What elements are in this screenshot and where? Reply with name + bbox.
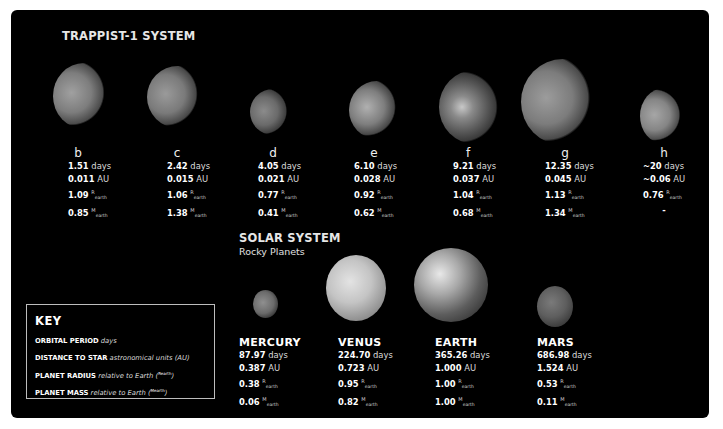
mars-stats: MARS 686.98 days 1.524 AU 0.53 Rearth 0.… bbox=[537, 336, 592, 412]
planet-c-image bbox=[147, 66, 209, 128]
planet-c-stats: c 2.42 days 0.015 AU 1.06 Rearth 1.38 Me… bbox=[167, 147, 210, 223]
venus-image bbox=[326, 255, 386, 321]
key-title: KEY bbox=[35, 314, 62, 328]
key-row-distance: DISTANCE TO STAR astronomical units (AU) bbox=[35, 354, 190, 362]
planet-label: d bbox=[258, 147, 288, 159]
planet-label: e bbox=[354, 147, 394, 159]
planet-e-image bbox=[349, 81, 405, 139]
key-row-mass: PLANET MASS relative to Earth (Mearth) bbox=[35, 388, 167, 397]
planet-label: g bbox=[545, 147, 585, 159]
planet-d-image bbox=[250, 89, 296, 135]
mars-image bbox=[537, 286, 573, 327]
infographic-panel: TRAPPIST-1 SYSTEM b 1.51 days 0.011 AU 1… bbox=[11, 10, 709, 418]
planet-g-image bbox=[521, 59, 605, 145]
planet-e-stats: e 6.10 days 0.028 AU 0.92 Rearth 0.62 Me… bbox=[354, 147, 397, 223]
mercury-image bbox=[253, 290, 278, 318]
earth-image bbox=[414, 248, 488, 322]
planet-label: c bbox=[167, 147, 187, 159]
planet-label: h bbox=[643, 147, 685, 159]
trappist-title: TRAPPIST-1 SYSTEM bbox=[62, 29, 195, 43]
planet-g-stats: g 12.35 days 0.045 AU 1.13 Rearth 1.34 M… bbox=[545, 147, 594, 223]
planet-b-image bbox=[53, 63, 115, 129]
solar-title: SOLAR SYSTEM bbox=[239, 231, 341, 245]
planet-d-stats: d 4.05 days 0.021 AU 0.77 Rearth 0.41 Me… bbox=[258, 147, 301, 223]
venus-stats: VENUS 224.70 days 0.723 AU 0.95 Rearth 0… bbox=[338, 336, 393, 412]
planet-b-stats: b 1.51 days 0.011 AU 1.09 Rearth 0.85 Me… bbox=[68, 147, 111, 223]
planet-f-image bbox=[439, 70, 511, 144]
planet-label: b bbox=[68, 147, 88, 159]
earth-stats: EARTH 365.26 days 1.000 AU 1.00 Rearth 1… bbox=[435, 336, 490, 412]
planet-h-stats: h ~20 days ~0.06 AU 0.76 Rearth - bbox=[643, 147, 685, 217]
key-row-orbital-period: ORBITAL PERIOD days bbox=[35, 337, 117, 345]
solar-subtitle: Rocky Planets bbox=[239, 246, 305, 257]
legend-key: KEY ORBITAL PERIOD days DISTANCE TO STAR… bbox=[26, 304, 215, 399]
key-row-radius: PLANET RADIUS relative to Earth (Rearth) bbox=[35, 371, 174, 380]
mercury-stats: MERCURY 87.97 days 0.387 AU 0.38 Rearth … bbox=[239, 336, 301, 412]
planet-f-stats: f 9.21 days 0.037 AU 1.04 Rearth 0.68 Me… bbox=[453, 147, 496, 223]
planet-h-image bbox=[640, 88, 688, 144]
planet-label: f bbox=[453, 147, 483, 159]
